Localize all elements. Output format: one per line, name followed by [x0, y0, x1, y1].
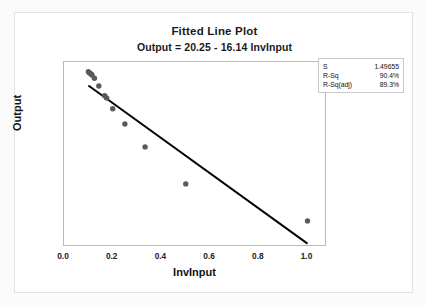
chart-title: Fitted Line Plot	[15, 25, 414, 37]
chart-subtitle: Output = 20.25 - 16.14 InvInput	[15, 41, 414, 53]
x-tick-label: 0.0	[43, 251, 83, 261]
x-tick-label: 0.8	[238, 251, 278, 261]
x-axis-label: InvInput	[63, 266, 326, 278]
y-axis-label: Output	[11, 95, 23, 131]
data-point	[122, 121, 127, 126]
x-tick-label: 0.4	[140, 251, 180, 261]
statistic-key: S	[323, 62, 332, 71]
x-tick-label: 0.6	[189, 251, 229, 261]
plot-area	[63, 61, 326, 246]
data-point	[110, 106, 115, 111]
data-point	[183, 181, 188, 186]
screenshot-root: Fitted Line Plot Output = 20.25 - 16.14 …	[0, 0, 427, 305]
x-tick-label: 0.2	[92, 251, 132, 261]
data-point	[92, 76, 97, 81]
statistics-box: S1.49655R-Sq90.4%R-Sq(adj)89.3%	[318, 58, 404, 93]
scatter-points	[86, 69, 311, 223]
statistic-value: 1.49655	[374, 62, 399, 71]
statistic-row: R-Sq90.4%	[323, 71, 399, 80]
data-point	[305, 218, 310, 223]
fitted-line	[88, 86, 307, 244]
data-point	[104, 95, 109, 100]
statistic-key: R-Sq	[323, 71, 343, 80]
chart-card: Fitted Line Plot Output = 20.25 - 16.14 …	[14, 12, 413, 293]
regression-line	[88, 86, 307, 244]
statistic-row: R-Sq(adj)89.3%	[323, 80, 399, 89]
statistic-row: S1.49655	[323, 62, 399, 71]
plot-canvas	[64, 62, 327, 247]
statistic-key: R-Sq(adj)	[323, 80, 356, 89]
data-point	[142, 144, 147, 149]
data-point	[96, 83, 101, 88]
statistic-value: 90.4%	[380, 71, 399, 80]
statistic-value: 89.3%	[380, 80, 399, 89]
x-tick-label: 1.0	[287, 251, 327, 261]
